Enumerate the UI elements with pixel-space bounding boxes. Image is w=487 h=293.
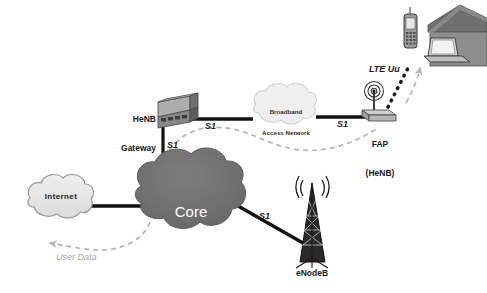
lte-uu-label: LTE Uu <box>369 64 400 74</box>
s1-label-gateway-to-broadband: S1 <box>205 121 216 131</box>
s1-label-core-to-enodeb: S1 <box>259 211 270 221</box>
henb-gateway-label: HeNB Gateway <box>104 96 156 172</box>
fap-label-line1: FAP <box>352 140 408 150</box>
s1-label-gateway-to-core: S1 <box>167 140 178 150</box>
path-user-data-core-to-internet <box>50 222 150 250</box>
router-box-icon <box>158 93 198 128</box>
network-architecture-diagram: HeNB Gateway Broadband Access Network FA… <box>0 0 487 293</box>
mobile-phone-icon <box>404 7 417 48</box>
broadband-access-network-label: Broadband Access Network <box>252 95 320 151</box>
diagram-canvas <box>0 0 487 293</box>
core-network-label-line1: Core <box>146 204 236 220</box>
broadband-label-line2: Access Network <box>252 130 320 137</box>
fap-label-line2: (HeNB) <box>352 169 408 179</box>
core-network-label-line2: network <box>146 251 236 267</box>
fap-henb-label: FAP (HeNB) <box>352 121 408 197</box>
user-data-label: User Data <box>56 252 97 262</box>
path-fap-to-home <box>406 68 420 103</box>
cell-tower-icon <box>296 176 329 268</box>
s1-label-broadband-to-fap: S1 <box>337 119 348 129</box>
broadband-label-line1: Broadband <box>252 109 320 116</box>
core-network-label: Core network <box>146 172 236 293</box>
henb-gateway-label-line2: Gateway <box>104 144 156 154</box>
henb-gateway-label-line1: HeNB <box>104 115 156 125</box>
enodeb-label: eNodeB <box>284 269 340 279</box>
internet-label: Internet <box>32 193 90 202</box>
